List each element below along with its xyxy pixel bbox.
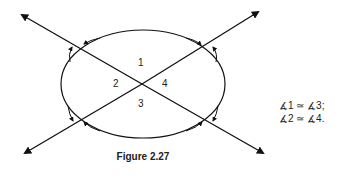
line-a: [22, 15, 142, 84]
line-b: [142, 12, 258, 84]
line-b-ext: [25, 84, 142, 153]
angle-label-2: 2: [113, 78, 119, 89]
line-a-ext: [142, 84, 263, 153]
relation-1: ∡1 ≃ ∡3;: [279, 99, 324, 112]
angle-label-4: 4: [162, 78, 168, 89]
relation-2: ∡2 ≃ ∡4.: [279, 112, 324, 125]
figure-caption: Figure 2.27: [0, 151, 286, 162]
angle-label-3: 3: [138, 98, 144, 109]
angle-label-1: 1: [138, 57, 144, 68]
